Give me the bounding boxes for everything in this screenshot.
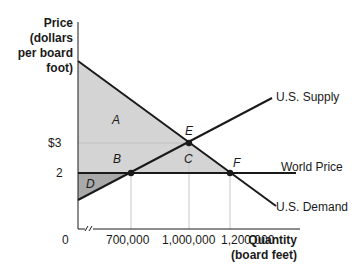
point-700k (128, 170, 134, 176)
x-axis-title-2: (board feet) (231, 248, 297, 262)
point-e (186, 140, 192, 146)
x-tick-0: 0 (62, 233, 69, 247)
point-e-label: E (185, 124, 193, 138)
y-tick-2: 2 (56, 166, 63, 180)
y-axis-title-1: Price (44, 16, 73, 30)
supply-label: U.S. Supply (276, 90, 339, 104)
y-axis-title-4: foot) (46, 61, 73, 75)
area-b-label: B (113, 152, 121, 166)
area-a-label: A (112, 113, 120, 127)
world-price-label: World Price (281, 160, 343, 174)
x-tick-1m: 1,000,000 (162, 233, 215, 247)
y-axis-title-3: per board (18, 46, 73, 60)
x-tick-700k: 700,000 (106, 233, 149, 247)
x-axis-title-1: Quantity (248, 233, 297, 247)
area-d-label: D (86, 177, 95, 191)
point-f (227, 170, 233, 176)
demand-label: U.S. Demand (276, 200, 348, 214)
y-axis-title-2: (dollars (30, 31, 73, 45)
point-f-label: F (233, 156, 240, 170)
y-tick-3: $3 (48, 136, 61, 150)
area-c-label: C (184, 152, 193, 166)
